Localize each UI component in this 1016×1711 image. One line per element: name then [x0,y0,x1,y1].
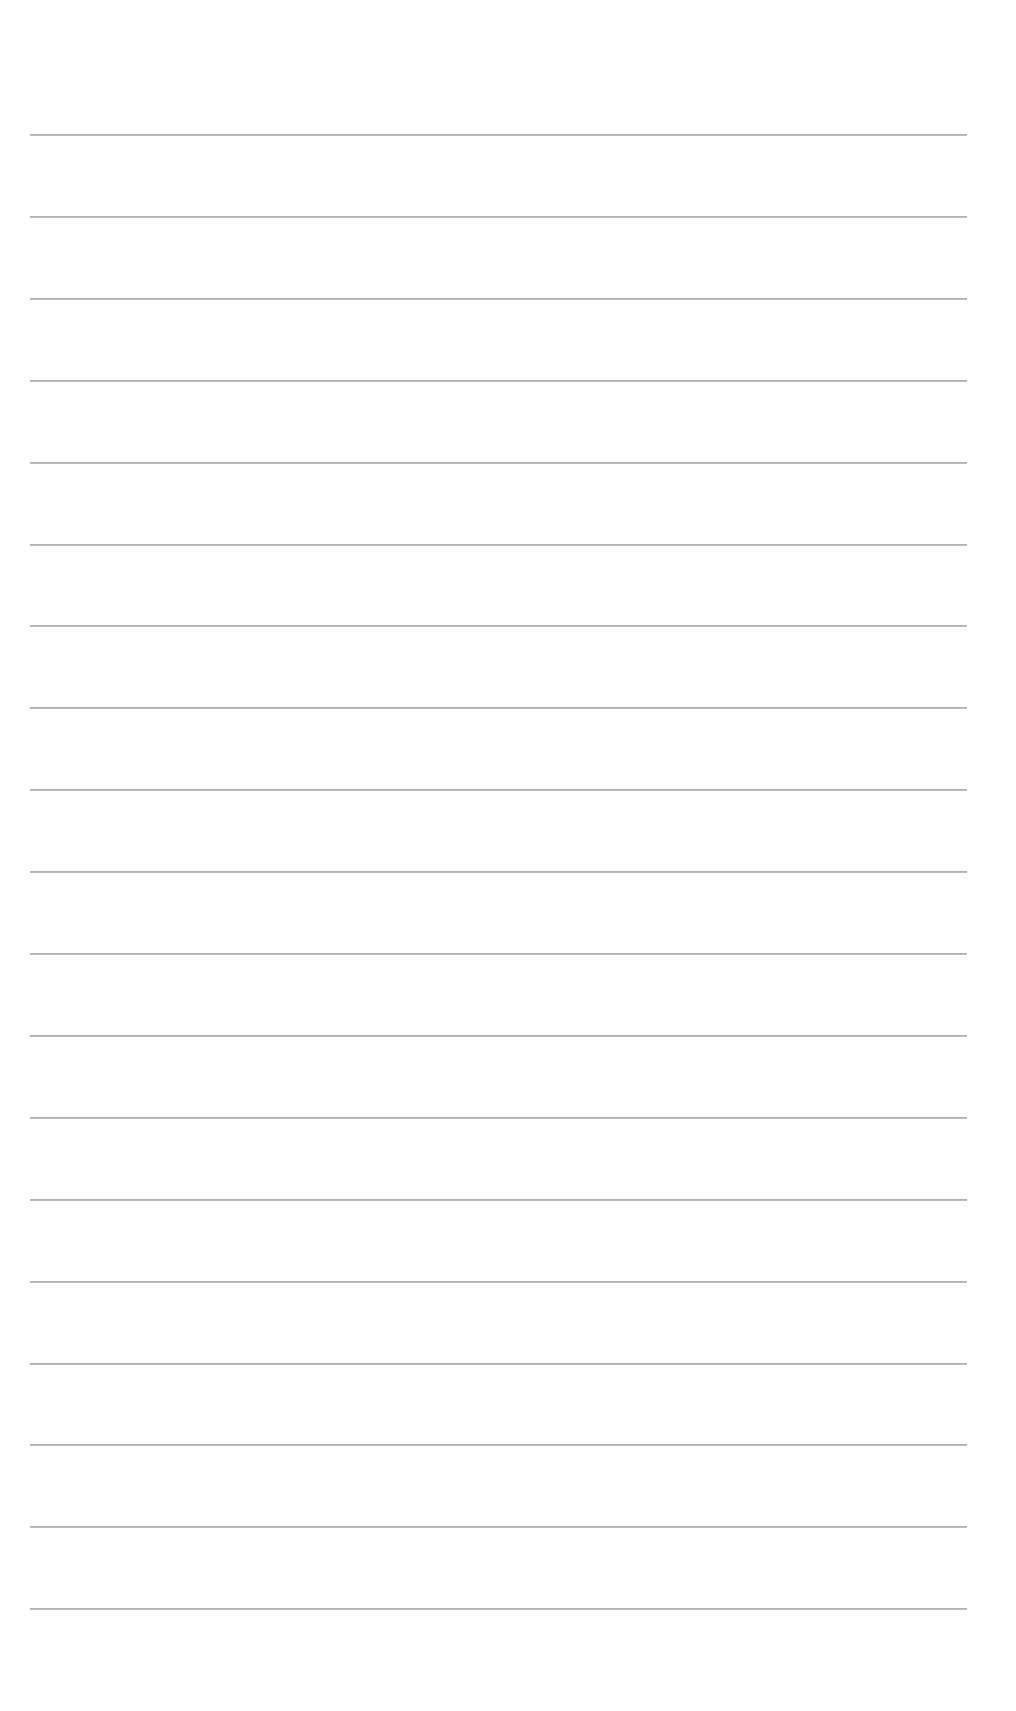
ruled-line [30,1035,967,1037]
ruled-line [30,1444,967,1446]
ruled-line [30,871,967,873]
ruled-line [30,1199,967,1201]
ruled-line [30,134,967,136]
ruled-line [30,1526,967,1528]
ruled-line [30,1363,967,1365]
ruled-line [30,544,967,546]
ruled-line [30,216,967,218]
ruled-line [30,462,967,464]
lined-paper-page [0,0,1016,1711]
ruled-line [30,380,967,382]
ruled-line [30,1117,967,1119]
ruled-line [30,1608,967,1610]
ruled-line [30,707,967,709]
ruled-line [30,625,967,627]
ruled-line [30,1281,967,1283]
ruled-line [30,789,967,791]
ruled-line [30,298,967,300]
ruled-line [30,953,967,955]
